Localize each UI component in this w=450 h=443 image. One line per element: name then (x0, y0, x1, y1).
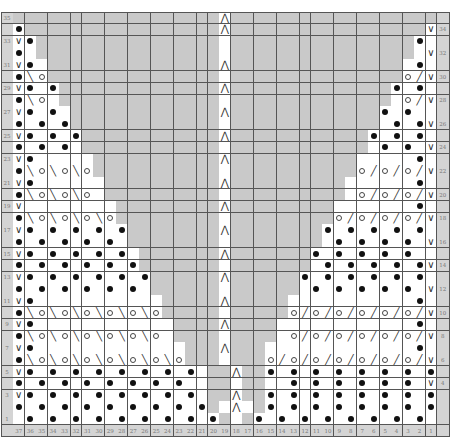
grey-cell (197, 201, 209, 213)
blank-cell (368, 295, 380, 307)
blank-cell (197, 390, 209, 402)
row-label-left (1, 331, 14, 343)
yarn-over-icon (128, 307, 140, 319)
grey-cell (151, 224, 163, 236)
blank-cell (71, 260, 83, 272)
purl-dot-icon (368, 272, 380, 284)
grey-cell (300, 154, 312, 166)
grey-cell (322, 106, 334, 118)
grey-cell (380, 36, 392, 48)
yarn-over-icon (288, 331, 300, 343)
stitch-number-label: 6 (368, 425, 380, 437)
row-label-right (437, 106, 450, 118)
purl-dot-icon (380, 236, 392, 248)
purl-dot-icon (311, 401, 323, 413)
purl-dot-icon (334, 283, 346, 295)
grey-cell (174, 189, 186, 201)
grey-cell (116, 71, 128, 83)
blank-cell (197, 413, 209, 425)
blank-cell (139, 401, 151, 413)
purl-dot-icon (391, 413, 403, 425)
grey-cell (380, 95, 392, 107)
yarn-over-icon (59, 165, 71, 177)
grey-cell (219, 413, 231, 425)
grey-cell (105, 154, 117, 166)
blank-cell (36, 83, 48, 95)
row-label-right (437, 401, 450, 413)
purl-dot-icon (13, 283, 25, 295)
purl-dot-icon (357, 390, 369, 402)
row-label-right: 10 (437, 307, 450, 319)
left-decrease-icon: ╲ (48, 331, 60, 343)
yarn-over-icon (105, 354, 117, 366)
blank-cell (59, 342, 71, 354)
grey-cell (334, 47, 346, 59)
row-label-right (437, 390, 450, 402)
yarn-over-icon (288, 354, 300, 366)
row-label-left (1, 47, 14, 59)
yarn-over-icon (82, 165, 94, 177)
blank-cell (322, 366, 334, 378)
grey-cell (277, 177, 289, 189)
grey-cell (48, 24, 60, 36)
grey-cell (197, 236, 209, 248)
grey-cell (322, 95, 334, 107)
blank-cell (48, 260, 60, 272)
blank-cell (426, 36, 438, 48)
grey-cell (345, 83, 357, 95)
grey-cell (277, 83, 289, 95)
grey-cell (71, 24, 83, 36)
purl-dot-icon (185, 413, 197, 425)
purl-dot-icon (13, 236, 25, 248)
grey-cell (219, 366, 231, 378)
grey-cell (116, 213, 128, 225)
grey-cell (311, 47, 323, 59)
purl-dot-icon (25, 342, 37, 354)
purl-dot-icon (13, 165, 25, 177)
grey-cell (277, 142, 289, 154)
grey-cell (208, 248, 220, 260)
grey-cell (300, 213, 312, 225)
grey-cell (254, 378, 266, 390)
grey-cell (265, 248, 277, 260)
grey-cell (59, 59, 71, 71)
purl-dot-icon (357, 401, 369, 413)
grey-cell (242, 236, 254, 248)
grey-cell (254, 224, 266, 236)
grey-cell (174, 36, 186, 48)
slip-stitch-icon: ∨ (426, 189, 438, 201)
blank-cell (391, 154, 403, 166)
stitch-number-label: 25 (151, 425, 163, 437)
row-label-left (1, 24, 14, 36)
grey-cell (185, 24, 197, 36)
blank-cell (426, 248, 438, 260)
row-label-left (1, 142, 14, 154)
purl-dot-icon (391, 118, 403, 130)
blank-cell (139, 283, 151, 295)
grey-cell (288, 12, 300, 24)
blank-cell (231, 378, 243, 390)
blank-cell (151, 413, 163, 425)
blank-cell (71, 401, 83, 413)
right-decrease-icon: ╱ (322, 307, 334, 319)
purl-dot-icon (36, 142, 48, 154)
blank-cell (59, 413, 71, 425)
grey-cell (242, 71, 254, 83)
grey-cell (345, 71, 357, 83)
grey-cell (322, 59, 334, 71)
purl-dot-icon (25, 366, 37, 378)
row-label-right (437, 272, 450, 284)
yarn-over-icon (105, 307, 117, 319)
purl-dot-icon (71, 130, 83, 142)
right-decrease-icon: ╱ (368, 165, 380, 177)
grey-cell (174, 224, 186, 236)
grey-cell (162, 36, 174, 48)
row-label-right (437, 177, 450, 189)
grey-cell (105, 118, 117, 130)
grey-cell (48, 36, 60, 48)
grey-cell (368, 71, 380, 83)
blank-cell (368, 390, 380, 402)
stitch-number-label: 13 (288, 425, 300, 437)
purl-dot-icon (105, 401, 117, 413)
grey-cell (391, 24, 403, 36)
